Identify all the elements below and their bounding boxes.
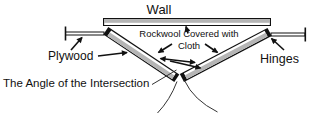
acoustic-panel-diagram: Wall Rockwool Covered with Cloth Plywood… [0, 0, 314, 115]
rockwool-label: Rockwool Covered with Cloth [130, 28, 248, 51]
wall-label: Wall [138, 2, 180, 17]
right-plywood-sheet [271, 28, 305, 42]
wall-bar [104, 19, 271, 26]
rockwool-label-line2: Cloth [130, 40, 248, 52]
vertex-double-arrow [161, 59, 196, 63]
angle-of-intersection-label: The Angle of the Intersection [3, 76, 149, 90]
angle-curve-left [158, 82, 178, 114]
plywood-label: Plywood [48, 49, 93, 63]
plywood-panel-arrow [98, 53, 127, 57]
hinges-label: Hinges [260, 52, 299, 66]
left-plywood-sheet [66, 27, 105, 41]
rockwool-label-line1: Rockwool Covered with [130, 28, 248, 40]
hinges-arrow [272, 39, 285, 51]
angle-curve-right [185, 81, 218, 113]
